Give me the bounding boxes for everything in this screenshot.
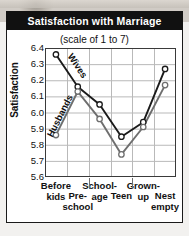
background-photo-strip [0, 0, 189, 8]
x-axis-tick-labels: BeforekidsPre-schoolSchool-ageTeenGrown-… [6, 178, 183, 223]
data-point-husbands [162, 82, 167, 87]
data-point-husbands [141, 124, 146, 129]
series-label-husbands: Husbands [45, 93, 75, 139]
y-tick-label: 5.9 [20, 124, 44, 134]
x-label-separator [132, 178, 133, 189]
y-tick-label: 6.4 [20, 43, 44, 53]
chart-title-bar: Satisfaction with Marriage [6, 11, 183, 30]
x-tick-label-line: Before [41, 180, 71, 191]
data-point-husbands [75, 89, 80, 94]
page-title: Satisfaction with Marriage [27, 15, 161, 27]
data-point-wives [97, 102, 102, 107]
chart-figure: Satisfaction with Marriage (scale of 1 t… [0, 0, 189, 236]
x-label-separator [89, 178, 90, 189]
x-tick-label-line: empty [151, 201, 179, 212]
y-tick-label: 6.2 [20, 75, 44, 85]
x-tick-label-line: Nest [155, 190, 176, 201]
plot-area: WivesHusbands [45, 48, 176, 177]
data-point-wives [119, 134, 124, 139]
y-tick-label: 5.8 [20, 140, 44, 150]
y-tick-label: 6.3 [20, 59, 44, 69]
data-point-husbands [97, 116, 102, 121]
y-axis-tick-labels: 6.46.36.26.16.05.95.85.75.6 [20, 42, 44, 183]
data-point-husbands [119, 152, 124, 157]
x-tick-label-line: school [62, 201, 93, 212]
y-tick-label: 5.7 [20, 156, 44, 166]
x-tick-label-6: Nestempty [139, 191, 189, 212]
data-point-wives [53, 52, 58, 57]
chart-subtitle-text: (scale of 1 to 7) [60, 34, 129, 45]
data-point-wives [162, 66, 167, 71]
line-chart-svg: WivesHusbands [45, 48, 176, 177]
y-tick-label: 6.1 [20, 91, 44, 101]
y-tick-label: 6.0 [20, 108, 44, 118]
